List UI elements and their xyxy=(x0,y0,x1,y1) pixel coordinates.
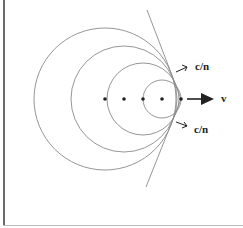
emission-dot xyxy=(179,97,183,101)
diagram-frame: c/n c/n v xyxy=(0,0,243,228)
velocity-arrow-icon xyxy=(187,93,214,105)
lower-wave-arrow-icon xyxy=(176,122,187,128)
upper-wave-label: c/n xyxy=(195,60,209,72)
cone-line-lower xyxy=(146,99,181,187)
emission-dot xyxy=(141,97,145,101)
emission-points xyxy=(103,97,183,101)
cherenkov-diagram xyxy=(0,0,243,228)
wavefront-circles xyxy=(34,28,181,170)
lower-wave-label: c/n xyxy=(194,123,208,135)
velocity-label: v xyxy=(221,92,227,104)
upper-wave-arrow-icon xyxy=(176,65,187,72)
emission-dot xyxy=(103,97,107,101)
emission-dot xyxy=(122,97,126,101)
emission-dot xyxy=(160,97,164,101)
